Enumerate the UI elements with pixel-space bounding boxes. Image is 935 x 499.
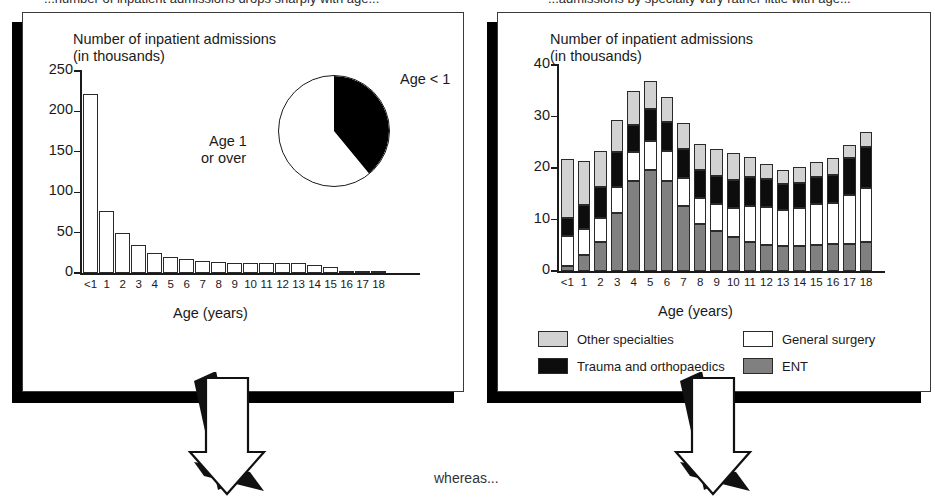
left-y-tickmark <box>74 70 82 71</box>
right-x-axis-label: Age (years) <box>658 303 733 319</box>
right-stacked-bar <box>710 65 723 271</box>
right-bar-segment <box>710 204 723 231</box>
right-bar-segment <box>677 123 690 149</box>
clipped-caption-left: ...number of inpatient admissions drops … <box>44 0 379 6</box>
right-y-tick-label: 20 <box>506 158 550 174</box>
pie-label-age-under-1: Age < 1 <box>400 71 450 88</box>
right-stacked-bar <box>661 65 674 271</box>
right-bar-segment <box>744 242 757 271</box>
right-stacked-bar <box>860 65 873 271</box>
right-bar-segment <box>843 195 856 243</box>
right-bar-segment <box>694 144 707 170</box>
right-bar-segment <box>827 244 840 271</box>
left-y-tick-label: 50 <box>29 223 73 239</box>
pie-label-age-1-or-over-line1: Age 1 <box>209 133 247 150</box>
right-stacked-bar <box>744 65 757 271</box>
right-bar-segment <box>578 205 591 229</box>
right-stacked-bar <box>561 65 574 271</box>
right-panel: Number of inpatient admissions (in thous… <box>497 12 931 392</box>
right-y-tickmark <box>551 167 559 168</box>
right-bar-segment <box>578 255 591 271</box>
right-bar-segment <box>644 141 657 170</box>
left-y-tick-label: 0 <box>29 263 73 279</box>
right-stacked-bar <box>677 65 690 271</box>
right-bar-segment <box>644 81 657 109</box>
left-bar <box>211 262 226 273</box>
right-bar-segment <box>727 237 740 271</box>
right-bar-segment <box>744 177 757 206</box>
right-bar-segment <box>760 245 773 271</box>
right-bar-segment <box>760 164 773 178</box>
right-stacked-bar <box>777 65 790 271</box>
right-y-tickmark <box>551 64 559 65</box>
left-bar <box>243 263 258 274</box>
left-bar <box>275 263 290 273</box>
right-bar-segment <box>860 242 873 271</box>
left-bar <box>163 257 178 273</box>
left-panel: Number of inpatient admissions (in thous… <box>22 12 464 392</box>
right-bar-segment <box>611 152 624 187</box>
right-bar-segment <box>843 244 856 271</box>
left-y-tickmark <box>74 151 82 152</box>
left-bar <box>291 263 306 273</box>
right-bar-segment <box>860 188 873 242</box>
right-bar-segment <box>793 246 806 271</box>
right-bar-segment <box>578 161 591 205</box>
right-bar-segment <box>827 203 840 245</box>
right-bar-segment <box>793 208 806 246</box>
left-y-tickmark <box>74 111 82 112</box>
right-bar-segment <box>677 178 690 206</box>
left-bar <box>195 261 210 273</box>
left-y-tick-label: 150 <box>29 142 73 158</box>
left-chart-title: Number of inpatient admissions <box>73 31 276 48</box>
right-bar-segment <box>810 245 823 271</box>
right-bar-segment <box>611 120 624 152</box>
right-bar-segment <box>694 224 707 271</box>
clipped-caption-right: ...admissions by specialty vary rather l… <box>548 0 851 6</box>
right-y-tick-label: 40 <box>506 55 550 71</box>
left-bar <box>99 211 114 273</box>
right-bar-segment <box>810 162 823 176</box>
right-stacked-bar <box>760 65 773 271</box>
right-bar-segment <box>661 122 674 151</box>
legend-swatch-other-specialties <box>538 331 568 347</box>
right-stacked-bar <box>627 65 640 271</box>
right-y-tick-label: 0 <box>506 261 550 277</box>
right-bar-segment <box>594 242 607 271</box>
right-bar-segment <box>860 147 873 188</box>
right-stacked-bar <box>694 65 707 271</box>
legend-item-general-surgery: General surgery <box>743 331 875 347</box>
left-y-tick-label: 200 <box>29 101 73 117</box>
right-bar-segment <box>661 181 674 271</box>
right-y-tickmark <box>551 270 559 271</box>
right-bar-segment <box>827 158 840 175</box>
pie-chart <box>278 75 390 187</box>
left-down-arrow <box>180 372 300 499</box>
right-bar-segment <box>760 179 773 207</box>
slide-canvas: ...number of inpatient admissions drops … <box>0 0 935 499</box>
left-bar <box>115 233 130 273</box>
right-bar-segment <box>594 187 607 218</box>
right-stacked-bar <box>843 65 856 271</box>
legend-swatch-trauma-and-orthopaedics <box>538 358 568 374</box>
right-y-tick-label: 30 <box>506 107 550 123</box>
right-bar-segment <box>843 145 856 158</box>
left-y-tick-label: 250 <box>29 61 73 77</box>
right-bar-segment <box>677 206 690 271</box>
right-stacked-bar <box>827 65 840 271</box>
right-bar-segment <box>710 231 723 271</box>
right-down-arrow <box>666 372 786 499</box>
right-bar-segment <box>644 170 657 271</box>
right-bar-segment <box>677 149 690 178</box>
right-plot-area <box>558 65 883 271</box>
right-stacked-bar <box>810 65 823 271</box>
left-y-tickmark <box>74 192 82 193</box>
right-bar-segment <box>777 184 790 210</box>
right-y-tickmark <box>551 116 559 117</box>
right-bar-segment <box>860 132 873 147</box>
right-bar-segment <box>810 204 823 245</box>
right-chart-subtitle: (in thousands) <box>550 48 642 65</box>
right-bar-segment <box>744 157 757 177</box>
left-x-axis <box>80 273 420 275</box>
legend-label-other-specialties: Other specialties <box>577 332 674 347</box>
